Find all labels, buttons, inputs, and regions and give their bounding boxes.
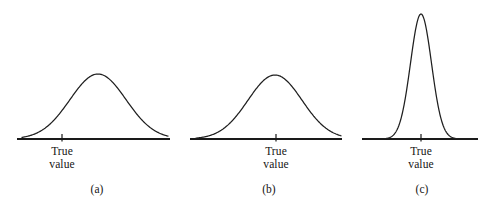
sampling-distribution-curve (196, 75, 341, 138)
true-value-label: Truevalue (263, 145, 288, 171)
figure-root: Truevalue(a)Truevalue(b)Truevalue(c) (0, 0, 492, 206)
panel-caption: (a) (91, 183, 104, 196)
panel-caption: (c) (416, 183, 429, 196)
sampling-distribution-curve (22, 74, 168, 137)
true-value-label-line: True (408, 145, 433, 158)
true-value-label-line: value (49, 158, 74, 171)
distribution-panel-a (17, 74, 170, 142)
true-value-label: Truevalue (49, 145, 74, 171)
true-value-label-line: True (263, 145, 288, 158)
sampling-distribution-curve (367, 14, 474, 139)
distribution-panel-b (190, 75, 342, 142)
panel-caption: (b) (262, 183, 275, 196)
true-value-label-line: True (49, 145, 74, 158)
distribution-figure-canvas (0, 0, 492, 206)
true-value-label-line: value (263, 158, 288, 171)
distribution-panel-c (362, 14, 478, 142)
true-value-label-line: value (408, 158, 433, 171)
true-value-label: Truevalue (408, 145, 433, 171)
